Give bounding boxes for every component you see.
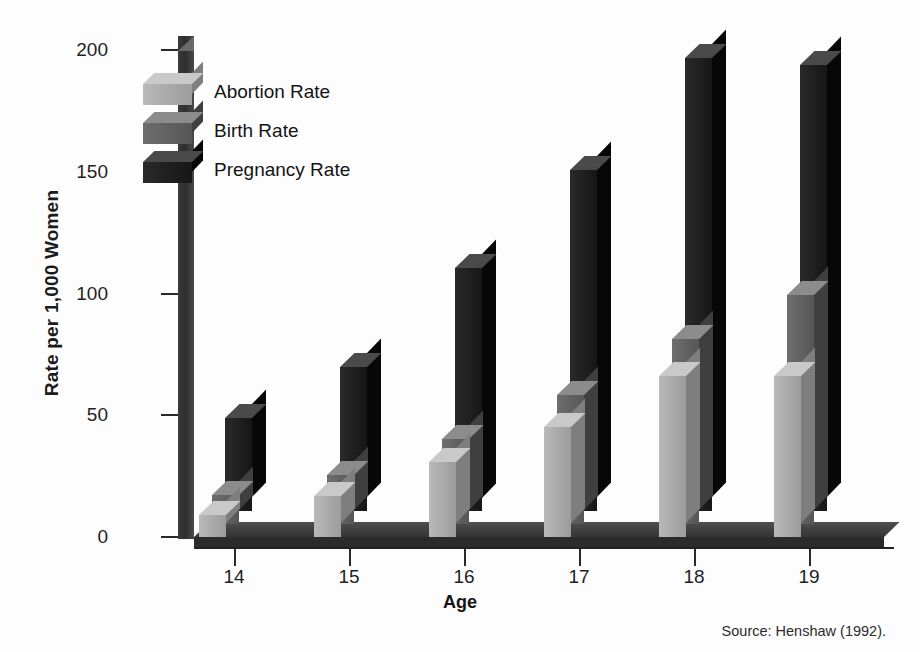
chart-figure: Rate per 1,000 Women 050100150200 141516… bbox=[0, 0, 920, 652]
y-tick-mark-0 bbox=[161, 536, 178, 538]
bar-abortion-age-16 bbox=[429, 462, 456, 537]
y-tick-label-100: 100 bbox=[52, 283, 108, 305]
x-tick-mark-14 bbox=[234, 549, 236, 566]
bar-side bbox=[712, 30, 726, 497]
chart-legend: Abortion RateBirth RatePregnancy Rate bbox=[143, 72, 350, 189]
bar-abortion-age-15 bbox=[314, 496, 341, 537]
legend-item-pregnancy: Pregnancy Rate bbox=[143, 150, 350, 189]
legend-item-birth: Birth Rate bbox=[143, 111, 350, 150]
legend-label-birth: Birth Rate bbox=[214, 120, 298, 142]
swatch-face bbox=[143, 123, 192, 144]
legend-swatch-abortion-icon bbox=[143, 84, 192, 105]
swatch-face bbox=[143, 84, 192, 105]
x-tick-label-16: 16 bbox=[434, 566, 494, 588]
x-axis-title: Age bbox=[0, 592, 920, 613]
x-tick-label-19: 19 bbox=[779, 566, 839, 588]
bar-side bbox=[827, 37, 841, 497]
bar-face bbox=[314, 496, 341, 537]
bar-side bbox=[686, 348, 700, 523]
bar-face bbox=[544, 427, 571, 537]
bar-side bbox=[597, 142, 611, 497]
x-tick-mark-19 bbox=[809, 549, 811, 566]
y-tick-mark-200 bbox=[161, 49, 178, 51]
x-tick-label-17: 17 bbox=[549, 566, 609, 588]
axis-wall-top-cap bbox=[178, 36, 194, 51]
bar-abortion-age-19 bbox=[774, 376, 801, 537]
y-tick-label-50: 50 bbox=[52, 404, 108, 426]
axis-baseline bbox=[194, 547, 894, 549]
x-tick-label-15: 15 bbox=[319, 566, 379, 588]
bar-abortion-age-17 bbox=[544, 427, 571, 537]
bar-face bbox=[659, 376, 686, 537]
bar-side bbox=[699, 310, 713, 510]
bar-abortion-age-14 bbox=[199, 515, 226, 537]
bar-group-age-16 bbox=[421, 50, 536, 537]
x-tick-label-18: 18 bbox=[664, 566, 724, 588]
bar-side bbox=[482, 239, 496, 497]
bar-group-age-18 bbox=[651, 50, 766, 537]
bar-face bbox=[429, 462, 456, 537]
bar-side bbox=[456, 433, 470, 523]
swatch-face bbox=[143, 162, 192, 183]
x-tick-label-14: 14 bbox=[204, 566, 264, 588]
bar-side bbox=[814, 267, 828, 510]
y-tick-mark-100 bbox=[161, 293, 178, 295]
legend-label-pregnancy: Pregnancy Rate bbox=[214, 159, 350, 181]
bar-abortion-age-18 bbox=[659, 376, 686, 537]
y-tick-mark-50 bbox=[161, 414, 178, 416]
bar-side bbox=[801, 348, 815, 523]
legend-swatch-pregnancy-icon bbox=[143, 162, 192, 183]
y-tick-label-200: 200 bbox=[52, 39, 108, 61]
source-note: Source: Henshaw (1992). bbox=[722, 623, 886, 639]
x-tick-mark-17 bbox=[579, 549, 581, 566]
bar-face bbox=[199, 515, 226, 537]
x-tick-mark-16 bbox=[464, 549, 466, 566]
bar-face bbox=[774, 376, 801, 537]
x-tick-mark-15 bbox=[349, 549, 351, 566]
legend-item-abortion: Abortion Rate bbox=[143, 72, 350, 111]
y-tick-label-0: 0 bbox=[52, 526, 108, 548]
legend-swatch-birth-icon bbox=[143, 123, 192, 144]
bar-group-age-19 bbox=[766, 50, 881, 537]
bar-group-age-17 bbox=[536, 50, 651, 537]
x-tick-mark-18 bbox=[694, 549, 696, 566]
y-tick-label-150: 150 bbox=[52, 161, 108, 183]
legend-label-abortion: Abortion Rate bbox=[214, 81, 330, 103]
